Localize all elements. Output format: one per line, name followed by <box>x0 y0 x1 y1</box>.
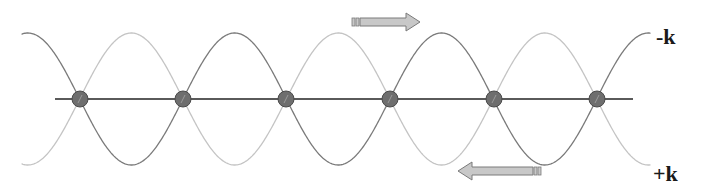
plus-k-label: +k <box>653 163 678 185</box>
minus-k-label: -k <box>656 26 676 48</box>
rightward-arrow-icon <box>352 13 420 31</box>
leftward-arrow-icon <box>458 162 541 180</box>
standing-wave-diagram <box>0 0 701 189</box>
arrows-group <box>352 13 541 180</box>
